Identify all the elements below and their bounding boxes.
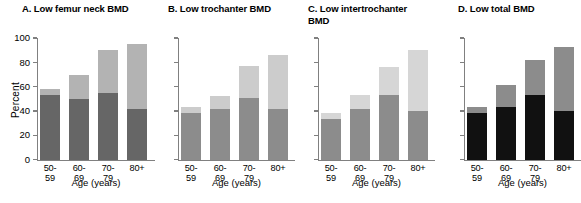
bar-70-79 (379, 67, 399, 159)
bar-segment (350, 95, 370, 108)
panel-b-y-tick-40 (174, 110, 178, 111)
panel-b-y-tick-60 (174, 86, 178, 87)
panel-c-y-tick-60 (314, 86, 318, 87)
panel-a-y-tick-label-0: 0 (6, 155, 30, 165)
panel-b-y-tick-0 (174, 159, 178, 160)
bar-50-59 (321, 113, 341, 159)
panel-d-y-tick-0 (460, 159, 464, 160)
panel-b: B. Low trochanter BMD 50-5960-6970-7980+… (160, 0, 300, 203)
panel-d: D. Low total BMD 50-5960-6970-7980+ Age … (440, 0, 581, 203)
bar-segment (239, 98, 259, 160)
panel-a-y-tick-label-80: 80 (6, 58, 30, 68)
panel-c-y-tick-0 (314, 159, 318, 160)
panel-c-y-tick-20 (314, 135, 318, 136)
panel-d-x-axis-title: Age (years) (464, 177, 581, 188)
bar-80+ (408, 50, 428, 159)
panel-a-y-tick-label-60: 60 (6, 82, 30, 92)
panel-a-y-tick-label-100: 100 (6, 33, 30, 43)
panel-d-y-axis (464, 38, 465, 161)
bar-60-69 (496, 85, 516, 159)
panel-d-y-tick-60 (460, 86, 464, 87)
bar-70-79 (98, 50, 118, 159)
panel-a-y-tick-20 (33, 135, 37, 136)
panel-a-y-tick-80 (33, 62, 37, 63)
panel-a-x-axis-title: Age (years) (37, 177, 155, 188)
bar-segment (408, 111, 428, 160)
panel-a-y-tick-label-20: 20 (6, 130, 30, 140)
bar-segment (98, 93, 118, 160)
panel-a-bars (40, 44, 147, 160)
panel-d-x-axis (464, 160, 581, 161)
panel-b-bars (181, 55, 288, 160)
bar-60-69 (69, 75, 89, 160)
bar-segment (350, 109, 370, 160)
panel-c-y-axis (318, 38, 319, 161)
bar-segment (69, 99, 89, 160)
panel-d-y-tick-100 (460, 37, 464, 38)
panel-a-x-axis (37, 160, 155, 161)
bar-segment (379, 95, 399, 159)
bar-60-69 (210, 96, 230, 159)
panel-a-y-tick-60 (33, 86, 37, 87)
bar-segment (496, 107, 516, 159)
panel-a-y-axis (37, 38, 38, 161)
panel-b-y-axis (178, 38, 179, 161)
bar-80+ (127, 44, 147, 160)
bar-segment (181, 113, 201, 159)
bar-segment (408, 50, 428, 111)
bar-segment (525, 60, 545, 95)
panel-a-y-tick-40 (33, 110, 37, 111)
bar-segment (268, 55, 288, 109)
panel-a-plot: 50-5960-6970-7980+ Age (years) 020406080… (0, 0, 160, 203)
panel-b-y-tick-20 (174, 135, 178, 136)
bar-70-79 (525, 60, 545, 160)
bar-segment (210, 96, 230, 108)
bar-60-69 (350, 95, 370, 159)
panel-b-plot: 50-5960-6970-7980+ Age (years) (160, 0, 300, 203)
bar-segment (554, 47, 574, 111)
bar-50-59 (181, 107, 201, 159)
bar-segment (268, 109, 288, 160)
bar-segment (98, 50, 118, 93)
panel-c-y-tick-100 (314, 37, 318, 38)
panel-d-plot: 50-5960-6970-7980+ Age (years) (440, 0, 581, 203)
panel-d-y-tick-80 (460, 62, 464, 63)
panel-c-y-tick-40 (314, 110, 318, 111)
bar-segment (127, 109, 147, 160)
bar-segment (40, 95, 60, 159)
panel-a-y-tick-label-40: 40 (6, 106, 30, 116)
panel-c: C. Low intertrochanter BMD 50-5960-6970-… (300, 0, 440, 203)
bar-segment (239, 66, 259, 98)
bar-segment (379, 67, 399, 95)
panel-b-x-axis (178, 160, 295, 161)
panel-c-x-axis (318, 160, 435, 161)
panel-a: A. Low femur neck BMD Percent 50-5960-69… (0, 0, 160, 203)
bar-segment (321, 119, 341, 159)
bar-segment (554, 111, 574, 160)
panel-d-y-tick-40 (460, 110, 464, 111)
bar-segment (69, 75, 89, 99)
panel-b-y-tick-80 (174, 62, 178, 63)
bar-50-59 (40, 89, 60, 160)
panel-c-plot: 50-5960-6970-7980+ Age (years) (300, 0, 440, 203)
panel-a-y-tick-0 (33, 159, 37, 160)
panel-c-x-axis-title: Age (years) (318, 177, 435, 188)
panel-d-y-tick-20 (460, 135, 464, 136)
panel-d-bars (467, 47, 574, 160)
figure-bmd-prevalence-by-age: A. Low femur neck BMD Percent 50-5960-69… (0, 0, 581, 203)
bar-segment (496, 85, 516, 107)
panel-b-y-tick-100 (174, 37, 178, 38)
panel-a-y-tick-100 (33, 37, 37, 38)
bar-80+ (554, 47, 574, 160)
panel-b-x-axis-title: Age (years) (178, 177, 295, 188)
bar-segment (525, 95, 545, 159)
bar-segment (127, 44, 147, 108)
bar-segment (210, 109, 230, 160)
bar-70-79 (239, 66, 259, 160)
panel-c-bars (321, 50, 428, 159)
bar-50-59 (467, 107, 487, 159)
panel-c-y-tick-80 (314, 62, 318, 63)
bar-segment (467, 113, 487, 159)
bar-80+ (268, 55, 288, 160)
